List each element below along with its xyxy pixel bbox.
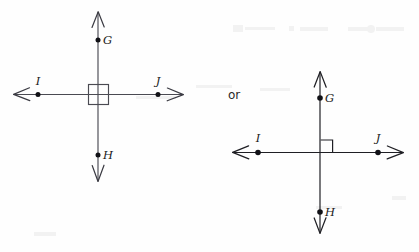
point-dot-j[interactable] xyxy=(156,92,161,97)
diagram-left[interactable]: G H I J xyxy=(14,12,184,182)
point-label-g: G xyxy=(325,91,334,105)
point-dot-g[interactable] xyxy=(317,95,323,101)
point-label-i: I xyxy=(255,131,261,145)
scan-artifacts xyxy=(34,25,406,236)
right-angle-marker-square xyxy=(321,140,333,152)
point-dot-h[interactable] xyxy=(317,209,323,215)
diagram-canvas: G H I J or G H xyxy=(0,0,419,252)
point-label-h: H xyxy=(102,148,114,162)
point-label-j: J xyxy=(154,74,162,88)
point-dot-h[interactable] xyxy=(96,153,101,158)
point-label-g: G xyxy=(103,33,112,47)
point-dot-i[interactable] xyxy=(255,150,261,156)
diagram-right[interactable]: G H I J xyxy=(233,72,404,234)
geometry-figure: G H I J or G H xyxy=(0,0,419,252)
point-dot-i[interactable] xyxy=(36,92,41,97)
conjunction-label: or xyxy=(228,88,240,102)
point-dot-j[interactable] xyxy=(375,150,381,156)
point-label-i: I xyxy=(35,74,41,88)
point-label-h: H xyxy=(324,205,336,219)
point-dot-g[interactable] xyxy=(96,38,101,43)
point-label-j: J xyxy=(374,131,382,145)
